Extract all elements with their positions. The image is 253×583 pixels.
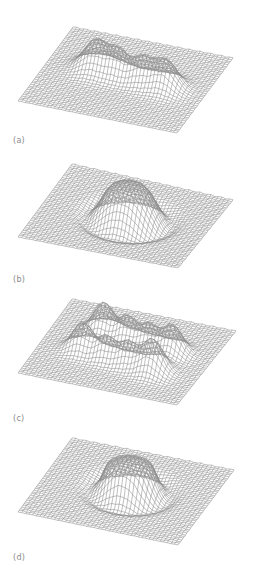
- panel-label-d: (d): [13, 553, 25, 562]
- wireframe-mesh: [18, 438, 234, 545]
- panel-d: (d): [0, 0, 253, 583]
- surface-plot-d: [0, 0, 253, 583]
